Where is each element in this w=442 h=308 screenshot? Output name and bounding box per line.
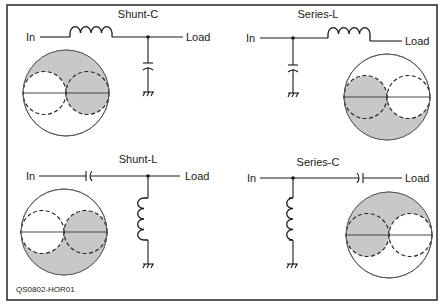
panel-title: Series-L [298, 8, 339, 20]
matching-network-diagram: Shunt-C In Load [0, 0, 442, 308]
figure-id-label: QS0802-HOR01 [16, 285, 75, 294]
load-label: Load [185, 170, 209, 182]
in-label: In [26, 170, 35, 182]
panel-title: Shunt-C [118, 8, 158, 20]
smith-chart [344, 54, 430, 140]
smith-chart [23, 50, 109, 136]
load-label: Load [405, 172, 429, 184]
smith-chart [346, 192, 432, 278]
load-label: Load [405, 35, 429, 47]
in-label: In [246, 32, 255, 44]
in-label: In [247, 172, 256, 184]
panel-title: Series-C [297, 156, 340, 168]
panel-title: Shunt-L [119, 153, 158, 165]
load-label: Load [186, 31, 210, 43]
in-label: In [26, 31, 35, 43]
smith-chart [21, 189, 107, 275]
